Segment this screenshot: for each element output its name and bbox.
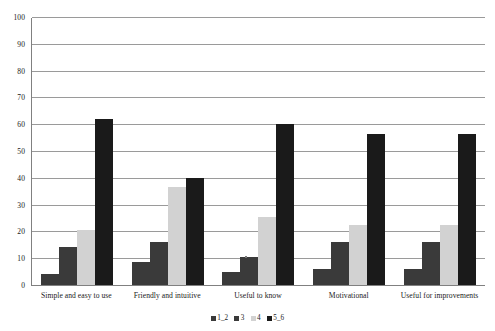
y-tick-label-0: 0 [21,282,25,290]
bar-4-0 [77,230,95,285]
legend-item-4[interactable]: 4 [251,315,261,322]
bar-5_6-1 [186,178,204,285]
bar-slot [349,18,367,285]
bar-slot [422,18,440,285]
legend-item-1_2[interactable]: 1_2 [211,315,229,322]
bar-5_6-0 [95,119,113,285]
bar-3-2 [240,257,258,285]
legend-label: 3 [241,315,245,322]
bar-slot [404,18,422,285]
bar-1_2-3 [313,269,331,285]
bar-4-3 [349,225,367,285]
bar-slot [222,18,240,285]
y-tick-label-90: 90 [17,41,25,49]
legend-label: 1_2 [217,315,228,322]
bar-1_2-0 [41,274,59,285]
x-category-label: Friendly and intuitive [122,288,213,304]
bar-4-4 [440,225,458,285]
legend-item-3[interactable]: 3 [234,315,244,322]
legend-item-5_6[interactable]: 5_6 [267,315,285,322]
bar-slot [313,18,331,285]
bar-5_6-2 [276,124,294,285]
y-tick-label-60: 60 [17,121,25,129]
y-tick-label-30: 30 [17,202,25,210]
legend-swatch-icon [234,316,239,321]
scan-artifact-speck [245,256,247,258]
x-axis: Simple and easy to useFriendly and intui… [31,288,485,304]
bar-1_2-1 [132,262,150,285]
y-tick-label-100: 100 [13,14,25,22]
y-tick-label-50: 50 [17,148,25,156]
y-tick-label-20: 20 [17,229,25,237]
bar-slot [440,18,458,285]
bar-slot [276,18,294,285]
bar-groups [32,18,485,285]
bar-group [304,18,395,285]
bar-slot [331,18,349,285]
bar-slot [59,18,77,285]
legend-swatch-icon [267,316,272,321]
bar-1_2-2 [222,272,240,285]
bar-3-1 [150,242,168,285]
legend-swatch-icon [251,316,256,321]
legend-label: 5_6 [273,315,284,322]
bar-slot [258,18,276,285]
bar-slot [41,18,59,285]
bar-slot [367,18,385,285]
bar-slot [150,18,168,285]
bar-3-3 [331,242,349,285]
bar-1_2-4 [404,269,422,285]
bar-chart: 0102030405060708090100 Simple and easy t… [0,0,495,331]
x-category-label: Useful to know [213,288,304,304]
bar-4-2 [258,217,276,285]
plot-area [31,18,485,286]
bar-slot [186,18,204,285]
bar-3-0 [59,247,77,285]
bar-slot [458,18,476,285]
y-tick-label-80: 80 [17,68,25,76]
chart-legend: 1_2345_6 [0,312,495,326]
x-category-label: Simple and easy to use [31,288,122,304]
y-tick-label-10: 10 [17,255,25,263]
bar-group [394,18,485,285]
y-axis: 0102030405060708090100 [0,18,29,286]
bar-3-4 [422,242,440,285]
bar-slot [77,18,95,285]
x-category-label: Useful for improvements [394,288,485,304]
bar-slot [240,18,258,285]
bar-5_6-4 [458,134,476,285]
y-tick-label-40: 40 [17,175,25,183]
bar-group [123,18,214,285]
y-tick-label-70: 70 [17,95,25,103]
legend-swatch-icon [211,316,216,321]
bar-5_6-3 [367,134,385,285]
bar-slot [132,18,150,285]
bar-group [213,18,304,285]
bar-slot [95,18,113,285]
legend-label: 4 [257,315,261,322]
bar-group [32,18,123,285]
x-category-label: Motivational [303,288,394,304]
bar-4-1 [168,187,186,285]
bar-slot [168,18,186,285]
gridline-0 [32,285,485,286]
